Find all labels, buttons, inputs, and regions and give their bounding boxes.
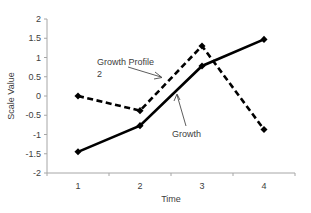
annotation-arrow (177, 95, 186, 126)
x-tick-label: 1 (75, 181, 80, 191)
y-tick-label: -0.5 (25, 110, 41, 120)
y-tick-label: 0.5 (28, 72, 41, 82)
annotation-growth: Growth (172, 129, 201, 139)
y-tick-label: -2 (33, 168, 41, 178)
y-tick-label: 1.5 (28, 33, 41, 43)
y-tick-label: -1.5 (25, 149, 41, 159)
x-tick-label: 4 (261, 181, 266, 191)
annotation-growth-profile-2: Growth Profile (97, 57, 154, 67)
y-tick-label: 2 (36, 14, 41, 24)
y-tick-label: 0 (36, 91, 41, 101)
y-tick-label: 1 (36, 53, 41, 63)
annotation-growth-profile-2-line2: 2 (97, 69, 102, 79)
x-tick-label: 3 (199, 181, 204, 191)
annotations: Growth Profile2Growth (97, 57, 201, 139)
series-layer (74, 36, 267, 155)
y-axis-title: Scale Value (6, 72, 16, 119)
annotation-arrow (128, 67, 161, 77)
x-axis: 1234 (47, 173, 295, 191)
data-point-marker (74, 148, 81, 155)
x-tick-label: 2 (137, 181, 142, 191)
data-point-marker (260, 36, 267, 43)
x-axis-title: Time (161, 194, 181, 204)
line-chart: 21.510.50-0.5-1-1.5-2 1234 Scale Value T… (0, 0, 311, 213)
data-point-marker (260, 126, 267, 133)
y-axis: 21.510.50-0.5-1-1.5-2 (25, 14, 47, 178)
y-tick-label: -1 (33, 130, 41, 140)
data-point-marker (74, 92, 81, 99)
